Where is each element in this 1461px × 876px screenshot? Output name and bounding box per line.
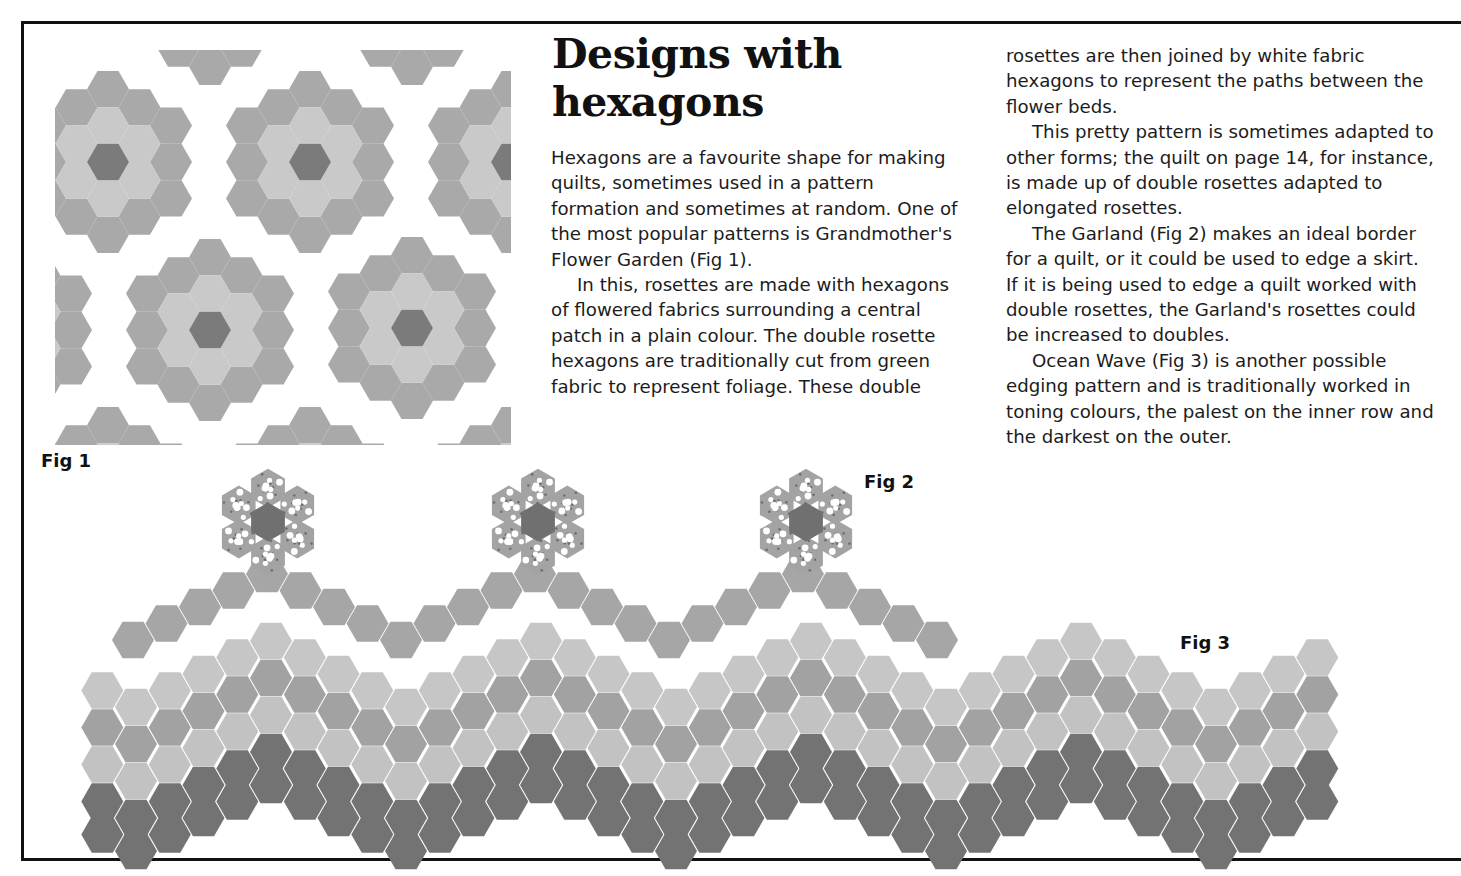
wave-hexagon <box>250 623 292 659</box>
flower-print-speck <box>580 542 583 545</box>
wave-hexagon <box>1094 676 1136 712</box>
flower-print-speck <box>777 548 780 551</box>
wave-hexagon <box>1161 746 1203 782</box>
garland-center-hexagon <box>789 503 823 542</box>
wave-hexagon <box>1060 767 1102 803</box>
wave-hexagon <box>858 767 900 803</box>
wave-hexagon <box>453 730 495 766</box>
wave-hexagon <box>520 623 562 659</box>
wave-hexagon <box>588 767 630 803</box>
wave-hexagon <box>284 713 326 749</box>
wave-hexagon <box>149 672 191 708</box>
wave-hexagon <box>554 750 596 786</box>
flower-print-speck <box>227 549 230 552</box>
flower-print-speck <box>239 548 242 551</box>
flower-print-dot <box>763 528 770 535</box>
flower-print-dot <box>268 487 273 492</box>
wave-hexagon <box>1094 713 1136 749</box>
flower-print-dot <box>300 543 305 548</box>
flower-print-speck <box>563 494 566 497</box>
flower-print-speck <box>261 473 264 476</box>
flower-print-speck <box>500 510 503 513</box>
flower-print-speck <box>778 528 781 531</box>
flower-print-speck <box>223 501 226 504</box>
wave-hexagon <box>1161 783 1203 819</box>
flower-print-dot <box>287 532 294 539</box>
wave-hexagon <box>318 693 360 729</box>
wave-hexagon <box>284 750 326 786</box>
flower-print-speck <box>285 527 288 530</box>
flower-print-speck <box>539 483 542 486</box>
wave-hexagon <box>689 816 731 852</box>
wave-hexagon <box>1128 800 1170 836</box>
wave-hexagon <box>1229 709 1271 745</box>
wave-hexagon <box>284 676 326 712</box>
flower-print-dot <box>243 504 250 511</box>
outer-ring-hexagon <box>252 12 294 48</box>
flower-print-dot <box>528 496 533 501</box>
fig3-ocean-wave-illustration <box>81 623 1338 869</box>
wave-hexagon <box>554 783 596 819</box>
wave-hexagon <box>216 639 258 675</box>
flower-print-dot <box>522 557 529 564</box>
flower-print-dot <box>275 544 280 549</box>
wave-hexagon <box>824 783 866 819</box>
wave-hexagon <box>1026 783 1068 819</box>
flower-print-dot <box>562 499 569 506</box>
wave-hexagon <box>790 734 832 770</box>
flower-print-speck <box>534 559 537 562</box>
wave-hexagon <box>1026 713 1068 749</box>
wave-hexagon <box>1128 730 1170 766</box>
flower-print-dot <box>264 544 271 551</box>
wave-hexagon <box>1094 783 1136 819</box>
wave-hexagon <box>385 800 427 836</box>
flower-print-dot <box>802 544 809 551</box>
flower-print-dot <box>288 508 295 515</box>
wave-hexagon <box>1229 746 1271 782</box>
flower-print-speck <box>230 510 233 513</box>
wave-hexagon <box>318 656 360 692</box>
flower-print-speck <box>509 548 512 551</box>
wave-hexagon <box>81 816 123 852</box>
garland-center-hexagon <box>521 503 555 542</box>
flower-print-dot <box>801 561 806 566</box>
wave-hexagon <box>81 672 123 708</box>
flower-print-speck <box>555 527 558 530</box>
wave-hexagon <box>925 726 967 762</box>
outer-ring-hexagon <box>119 534 161 570</box>
paragraph: In this, rosettes are made with hexagons… <box>551 272 961 399</box>
flower-print-speck <box>493 501 496 504</box>
wave-hexagon <box>959 709 1001 745</box>
flower-print-dot <box>534 544 541 551</box>
wave-hexagon <box>723 800 765 836</box>
flower-print-dot <box>772 504 779 511</box>
wave-hexagon <box>486 676 528 712</box>
wave-hexagon <box>993 730 1035 766</box>
flower-print-speck <box>260 547 263 550</box>
flower-print-dot <box>495 528 502 535</box>
wave-hexagon <box>1195 800 1237 836</box>
wave-hexagon <box>385 833 427 869</box>
wave-hexagon <box>858 730 900 766</box>
flower-print-speck <box>831 494 834 497</box>
wave-hexagon <box>858 693 900 729</box>
wave-hexagon <box>824 676 866 712</box>
flower-print-dot <box>292 499 299 506</box>
flower-print-speck <box>574 532 577 535</box>
wave-hexagon <box>1296 639 1338 675</box>
wave-hexagon <box>993 656 1035 692</box>
wave-hexagon <box>115 726 157 762</box>
flower-print-dot <box>512 530 519 537</box>
wave-hexagon <box>1026 676 1068 712</box>
flower-print-dot <box>305 508 312 515</box>
flower-print-dot <box>258 496 263 501</box>
flower-print-dot <box>263 561 268 566</box>
wave-hexagon <box>689 709 731 745</box>
fig1-label: Fig 1 <box>41 450 91 471</box>
flower-print-dot <box>557 532 564 539</box>
wave-hexagon <box>419 709 461 745</box>
wave-hexagon <box>621 746 663 782</box>
wave-hexagon <box>250 697 292 733</box>
wave-hexagon <box>689 783 731 819</box>
flower-print-speck <box>809 569 812 572</box>
